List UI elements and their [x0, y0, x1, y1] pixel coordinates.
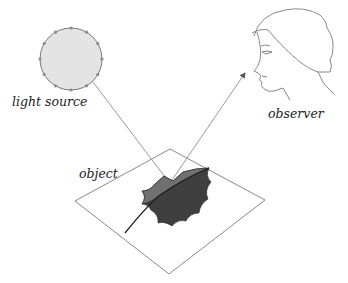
reflected-ray: [172, 73, 245, 180]
light-source-label: light source: [12, 96, 87, 109]
light-source-icon: [38, 26, 103, 91]
object-label: object: [79, 168, 118, 181]
observer-face-icon: [252, 9, 334, 100]
leaf-object-icon: [125, 168, 211, 233]
observer-label: observer: [268, 108, 324, 121]
diagram-canvas: [0, 0, 348, 283]
